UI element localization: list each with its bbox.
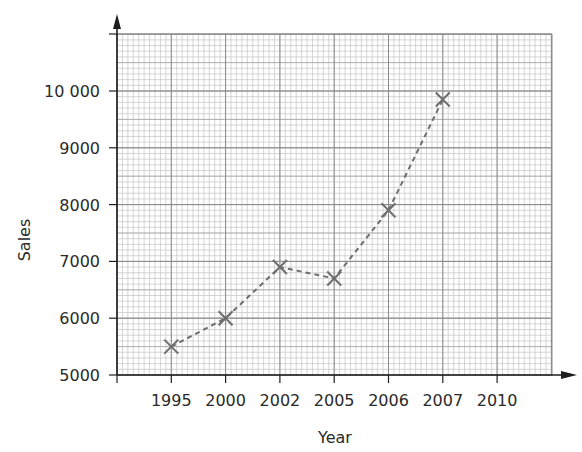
y-tick-label: 10 000 [44, 82, 100, 101]
y-axis-arrow-icon [113, 14, 121, 29]
x-axis-arrow-icon [561, 371, 577, 379]
x-tick-label: 2006 [368, 391, 409, 410]
y-tick-label: 6000 [59, 309, 100, 328]
x-axis-ticks: 1995200020022005200620072010 [117, 375, 517, 410]
x-tick-label: 2002 [260, 391, 301, 410]
x-axis-title: Year [317, 428, 352, 447]
y-axis-title: Sales [15, 219, 34, 262]
x-tick-label: 2007 [422, 391, 463, 410]
x-tick-label: 1995 [151, 391, 192, 410]
y-tick-label: 5000 [59, 366, 100, 385]
sales-line-chart: 5000600070008000900010 000 1995200020022… [0, 0, 582, 452]
y-tick-label: 7000 [59, 252, 100, 271]
y-tick-label: 9000 [59, 139, 100, 158]
y-axis-ticks: 5000600070008000900010 000 [44, 34, 117, 385]
x-tick-label: 2000 [205, 391, 246, 410]
x-tick-label: 2005 [314, 391, 355, 410]
x-tick-label: 2010 [477, 391, 518, 410]
y-tick-label: 8000 [59, 196, 100, 215]
